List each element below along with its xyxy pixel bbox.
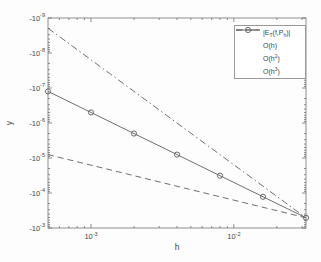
y-tick-label: -10-8 — [29, 47, 45, 58]
x-tick-label: 10-3 — [84, 231, 97, 242]
y-tick-label: -10-4 — [29, 187, 45, 198]
reference-line-O(h2) — [48, 91, 306, 217]
y-tick-label: -10-5 — [29, 152, 45, 163]
legend: |ET(f,Ph)|O(h)O(h2)O(h3) — [234, 25, 306, 79]
y-tick-label: -10-3 — [29, 222, 45, 233]
reference-line-O(h) — [48, 155, 306, 218]
legend-entry: O(h) — [237, 40, 303, 52]
legend-entry-label: O(h2) — [263, 54, 280, 62]
y-axis-label: y — [4, 120, 14, 125]
convergence-plot-figure: 10-310-2-10-9-10-8-10-7-10-6-10-5-10-4-1… — [0, 0, 321, 262]
legend-entry: O(h2) — [237, 52, 303, 64]
x-axis-label: h — [175, 242, 180, 252]
y-tick-label: -10-9 — [29, 12, 45, 23]
legend-entry-label: O(h) — [263, 42, 277, 49]
y-tick-label: -10-6 — [29, 117, 45, 128]
legend-entry-label: O(h3) — [263, 67, 280, 75]
legend-entry: O(h3) — [237, 65, 303, 77]
y-tick-label: -10-7 — [29, 82, 45, 93]
x-tick-label: 10-2 — [227, 231, 240, 242]
legend-entry-label: |ET(f,Ph)| — [263, 29, 290, 38]
